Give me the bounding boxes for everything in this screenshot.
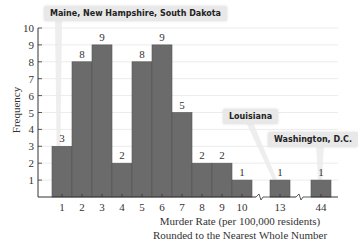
bar-2 <box>72 62 92 197</box>
svg-text:4: 4 <box>29 123 35 135</box>
svg-text:2: 2 <box>79 201 85 213</box>
bar-1 <box>52 146 72 197</box>
svg-text:9: 9 <box>29 39 35 51</box>
svg-text:13: 13 <box>275 201 287 213</box>
svg-text:10: 10 <box>237 201 249 213</box>
svg-text:1: 1 <box>318 166 324 178</box>
svg-text:3: 3 <box>99 201 105 213</box>
svg-text:6: 6 <box>159 201 165 213</box>
bar-7 <box>172 113 192 198</box>
callout-louisiana: Louisiana <box>223 109 278 124</box>
svg-text:8: 8 <box>139 48 145 60</box>
bar-5 <box>132 62 152 197</box>
svg-text:9: 9 <box>99 31 105 43</box>
bar-6 <box>152 45 172 197</box>
svg-text:1: 1 <box>277 166 283 178</box>
svg-text:2: 2 <box>119 149 125 161</box>
svg-text:8: 8 <box>199 201 205 213</box>
svg-text:5: 5 <box>29 107 35 119</box>
x-axis-label-line2: Rounded to the Nearest Whole Number <box>150 229 330 242</box>
svg-text:5: 5 <box>179 99 185 111</box>
y-axis-label: Frequency <box>10 80 22 140</box>
bar-3 <box>92 45 112 197</box>
svg-text:10: 10 <box>23 22 35 34</box>
x-axis-label: Murder Rate (per 100,000 residents) <box>150 215 330 228</box>
svg-text:1: 1 <box>29 174 35 186</box>
svg-text:9: 9 <box>159 31 165 43</box>
svg-text:8: 8 <box>79 48 85 60</box>
svg-text:6: 6 <box>29 90 35 102</box>
svg-text:3: 3 <box>29 140 35 152</box>
bar-9 <box>212 163 232 197</box>
svg-text:1: 1 <box>59 201 65 213</box>
svg-text:4: 4 <box>119 201 125 213</box>
svg-text:7: 7 <box>179 201 185 213</box>
bar-4 <box>112 163 132 197</box>
svg-text:3: 3 <box>59 132 65 144</box>
svg-text:9: 9 <box>219 201 225 213</box>
callout-washington-dc: Washington, D.C. <box>268 132 358 147</box>
svg-text:2: 2 <box>29 157 35 169</box>
callout-maine-nh-sd: Maine, New Hampshire, South Dakota <box>44 6 227 21</box>
svg-text:2: 2 <box>199 149 205 161</box>
svg-text:2: 2 <box>219 149 225 161</box>
svg-text:5: 5 <box>139 201 145 213</box>
bar-8 <box>192 163 212 197</box>
svg-text:44: 44 <box>316 201 328 213</box>
svg-text:8: 8 <box>29 56 35 68</box>
svg-text:7: 7 <box>29 73 35 85</box>
svg-text:1: 1 <box>239 166 245 178</box>
